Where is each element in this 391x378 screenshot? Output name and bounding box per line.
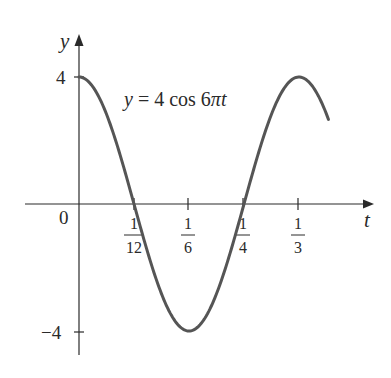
origin-label: 0 (59, 207, 69, 228)
x-tick-1-6: 1 6 (181, 198, 195, 256)
y-tick-neg4: −4 (41, 322, 84, 343)
svg-text:1: 1 (294, 215, 302, 232)
svg-text:1: 1 (184, 215, 192, 232)
svg-text:4: 4 (56, 67, 66, 88)
svg-text:12: 12 (126, 239, 142, 256)
x-axis-label: t (364, 208, 371, 232)
y-axis-arrow-icon (75, 34, 84, 46)
svg-text:−4: −4 (41, 322, 62, 343)
x-tick-1-3: 1 3 (291, 198, 305, 256)
chart: y t 0 4 −4 1 12 1 6 1 4 1 3 y = 4 cos 6π… (0, 0, 391, 378)
svg-text:4: 4 (239, 239, 247, 256)
svg-text:6: 6 (184, 239, 192, 256)
equation-label: y = 4 cos 6πt (122, 88, 227, 111)
svg-text:3: 3 (294, 239, 302, 256)
y-axis-label: y (58, 29, 70, 53)
